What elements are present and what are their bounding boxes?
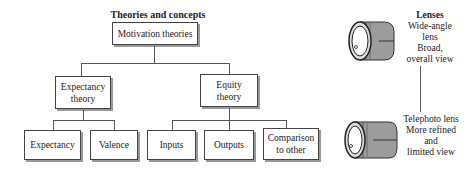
label-line: More refined [393,125,469,136]
label-line: lens [395,32,465,43]
leaf-label: Inputs [160,139,184,151]
node-label-line: theory [71,93,95,105]
leaf-expectancy: Expectancy [24,130,81,160]
leaf-label-line: Comparison [268,132,314,144]
leaf-outputs: Outputs [204,130,254,160]
diagram-title: Theories and concepts [108,9,208,20]
lenses-title: Lenses [395,10,465,21]
leaf-label: Expectancy [30,139,74,151]
label-line: Broad, [395,43,465,54]
telephoto-lens-icon [343,118,399,160]
root-node-label: Motivation theories [118,28,193,40]
connector [81,63,82,76]
root-node-motivation-theories: Motivation theories [112,22,198,45]
wide-angle-lens-label: Lenses Wide-angle lens Broad, overall vi… [395,10,465,65]
connector [53,120,114,121]
leaf-label: Valence [99,139,129,151]
leaf-valence: Valence [90,130,138,160]
leaf-inputs: Inputs [147,130,196,160]
node-equity-theory: Equity theory [200,74,258,107]
label-line: limited view [393,147,469,158]
label-line: Telephoto lens [393,114,469,125]
wide-angle-lens-icon [346,18,396,62]
connector [172,120,173,130]
label-line: Wide-angle [395,21,465,32]
connector [53,120,54,130]
connector [114,120,115,130]
telephoto-lens-label: Telephoto lens More refined and limited … [393,114,469,158]
node-label-line: theory [217,91,241,103]
leaf-comparison-to-other: Comparison to other [263,128,319,160]
connector [420,66,421,112]
connector [83,110,84,120]
leaf-label: Outputs [214,139,244,151]
connector [229,120,230,130]
connector [81,63,229,64]
connector [229,108,230,120]
node-label-line: Expectancy [61,81,105,93]
node-label-line: Equity [216,79,241,91]
label-line: and [393,136,469,147]
leaf-label-line: to other [276,144,305,156]
node-expectancy-theory: Expectancy theory [55,76,111,109]
label-line: overall view [395,54,465,65]
connector [154,46,155,63]
